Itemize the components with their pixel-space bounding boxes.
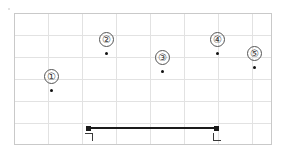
data-point-2[interactable] — [105, 52, 108, 55]
point-label-3[interactable]: ③ — [155, 50, 170, 65]
segment-endpoint-end[interactable] — [214, 126, 219, 131]
grid-line-horizontal-1 — [15, 57, 271, 58]
point-label-1[interactable]: ① — [44, 69, 59, 84]
segment-endpoint-start[interactable] — [86, 126, 91, 131]
data-point-4[interactable] — [216, 52, 219, 55]
corner-speck — [8, 8, 10, 10]
data-point-5[interactable] — [253, 66, 256, 69]
corner-bracket-left-icon — [85, 133, 93, 141]
data-point-3[interactable] — [161, 70, 164, 73]
grid-line-horizontal-0 — [15, 35, 271, 36]
grid-line-horizontal-4 — [15, 123, 271, 124]
data-point-1[interactable] — [50, 89, 53, 92]
point-label-5[interactable]: ⑤ — [247, 46, 262, 61]
point-label-2[interactable]: ② — [99, 32, 114, 47]
corner-bracket-right-icon — [213, 133, 221, 141]
measurement-segment[interactable] — [88, 127, 216, 129]
diagram-canvas: ①②③④⑤ — [0, 0, 282, 159]
grid-line-horizontal-3 — [15, 101, 271, 102]
point-label-4[interactable]: ④ — [210, 32, 225, 47]
